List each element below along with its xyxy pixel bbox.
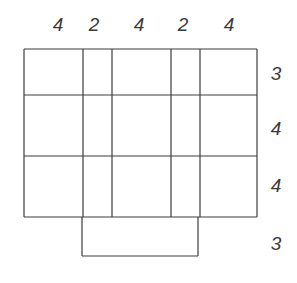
row-label-1: 3	[271, 64, 282, 83]
column-label-4: 2	[178, 15, 189, 34]
column-label-1: 4	[53, 15, 64, 34]
grid-lines	[0, 0, 297, 283]
grid-diagram: 4 2 4 2 4 3 4 4 3	[0, 0, 297, 283]
row-label-2: 4	[271, 119, 282, 138]
column-label-5: 4	[224, 15, 235, 34]
row-label-4: 3	[271, 234, 282, 253]
row-label-3: 4	[271, 176, 282, 195]
column-label-3: 4	[134, 15, 145, 34]
column-label-2: 2	[89, 15, 100, 34]
